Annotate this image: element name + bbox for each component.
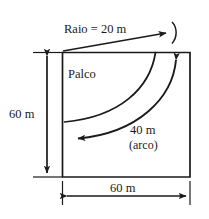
arc-value-label: 40 m — [130, 123, 156, 137]
radius-terminus-path — [172, 22, 176, 44]
radius-label: Raio = 20 m — [64, 22, 127, 36]
width-label: 60 m — [110, 181, 136, 195]
inner-arc — [65, 53, 156, 123]
geometry-diagram: Raio = 20 m Palco 40 m (arco) 60 m 60 m — [0, 0, 209, 219]
height-dimension — [33, 53, 63, 178]
arc-unit-label: (arco) — [129, 138, 158, 152]
interior-label: Palco — [68, 67, 96, 81]
inner-arc-path — [65, 53, 156, 123]
height-label: 60 m — [9, 107, 35, 121]
radius-terminus-arc — [172, 22, 176, 44]
figure-canvas: Raio = 20 m Palco 40 m (arco) 60 m 60 m — [0, 0, 209, 219]
